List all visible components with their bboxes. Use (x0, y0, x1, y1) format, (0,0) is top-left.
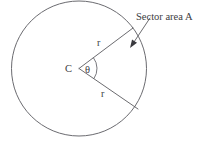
sector-diagram-canvas: Sector area A C θ r r (0, 0, 203, 146)
angle-arc (93, 58, 97, 79)
callout-arrow-icon (130, 40, 137, 48)
sector-area-label: Sector area A (136, 11, 193, 22)
lower-radius-label: r (101, 88, 105, 99)
center-point-label: C (65, 63, 72, 74)
upper-radius-line (79, 28, 133, 69)
sector-diagram-figure: Sector area A C θ r r (0, 0, 203, 146)
angle-theta-label: θ (85, 64, 90, 75)
upper-radius-label: r (97, 37, 101, 48)
